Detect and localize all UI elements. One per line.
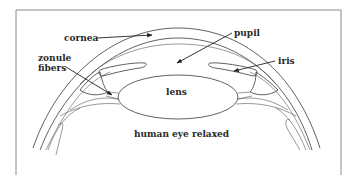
label-cornea: cornea bbox=[64, 33, 98, 43]
zonule-fibers-right bbox=[236, 92, 296, 116]
label-iris: iris bbox=[278, 56, 295, 66]
iris-right bbox=[209, 63, 257, 76]
pupil-pointer bbox=[177, 33, 232, 63]
label-zonule: zonule bbox=[38, 53, 72, 63]
anterior-chamber bbox=[80, 44, 276, 84]
zonule-fibers-left bbox=[60, 92, 120, 116]
diagram-title: human eye relaxed bbox=[134, 129, 230, 139]
cornea-pointer bbox=[97, 35, 152, 38]
inner-sclera-left bbox=[48, 108, 80, 150]
zonule-pointer bbox=[66, 67, 112, 95]
eye-diagram: cornea pupil zonule fibers iris lens hum… bbox=[0, 0, 357, 175]
lens bbox=[118, 75, 238, 119]
label-pupil: pupil bbox=[234, 28, 261, 38]
ciliary-body-right bbox=[250, 72, 278, 95]
label-fibers: fibers bbox=[38, 63, 66, 73]
lower-structure-left bbox=[56, 123, 63, 155]
label-lens: lens bbox=[166, 87, 187, 97]
inner-sclera-right bbox=[276, 108, 306, 150]
